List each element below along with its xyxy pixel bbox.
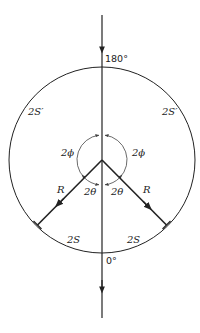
- phi-arc-right: [105, 135, 127, 178]
- label-r-left: R: [57, 185, 65, 195]
- label-0-degrees: 0°: [106, 256, 117, 266]
- label-2s-left: 2S: [67, 235, 80, 245]
- phi-arc-left: [77, 135, 99, 178]
- diagram-canvas: [0, 0, 200, 333]
- theta-arc-left: [84, 178, 99, 185]
- label-2s-right: 2S: [127, 235, 140, 245]
- label-2phi-right: 2ϕ: [132, 148, 145, 158]
- label-2phi-left: 2ϕ: [61, 148, 74, 158]
- label-r-right: R: [143, 185, 151, 195]
- label-180-degrees: 180°: [105, 54, 128, 64]
- label-2s-prime-left: 2S′: [28, 107, 43, 117]
- label-2theta-right: 2θ: [111, 187, 123, 197]
- label-2s-prime-right: 2S′: [162, 107, 177, 117]
- radius-left-arrow: [58, 198, 64, 204]
- theta-arc-right: [105, 178, 120, 185]
- label-2theta-left: 2θ: [84, 187, 96, 197]
- radius-right-arrow: [143, 201, 149, 207]
